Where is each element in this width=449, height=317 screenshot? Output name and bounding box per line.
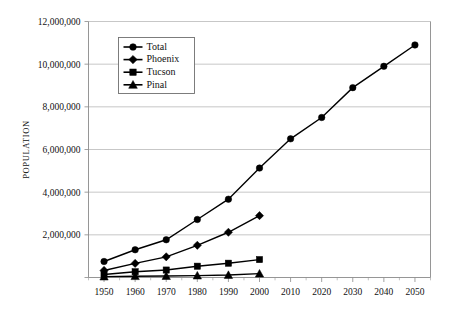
y-tick-label: 4,000,000 [43,188,81,198]
data-point-circle [256,165,263,172]
x-tick-label: 1960 [126,287,145,297]
data-point-circle [287,136,294,143]
legend-label: Phoenix [147,53,180,64]
x-tick-label: 1970 [157,287,176,297]
y-tick-label: 8,000,000 [43,102,81,112]
chart-legend: TotalPhoenixTucsonPinal [119,38,195,94]
data-point-circle [130,44,137,51]
data-point-circle [132,247,139,254]
x-tick-label: 2050 [405,287,424,297]
data-point-square [256,256,262,262]
y-tick-label: 2,000,000 [43,230,81,240]
x-tick-label: 2030 [343,287,362,297]
x-tick-label: 2000 [250,287,269,297]
data-point-square [130,69,136,75]
data-point-circle [225,196,232,203]
legend-label: Pinal [147,79,168,90]
x-tick-label: 1950 [95,287,114,297]
x-tick-label: 1980 [188,287,207,297]
x-tick-label: 2040 [374,287,393,297]
data-point-square [194,263,200,269]
legend-label: Tucson [147,66,176,77]
x-tick-label: 2020 [312,287,331,297]
data-point-circle [350,84,357,91]
x-tick-label: 1990 [219,287,238,297]
y-tick-label: 12,000,000 [38,17,81,27]
y-tick-label: 10,000,000 [38,60,81,70]
data-point-square [225,260,231,266]
chart-canvas: 2,000,0004,000,0006,000,0008,000,00010,0… [0,0,449,317]
chart-background [0,0,449,317]
y-axis-title: POPULATION [21,120,31,178]
data-point-circle [381,63,388,70]
data-point-circle [194,216,201,223]
population-line-chart: 2,000,0004,000,0006,000,0008,000,00010,0… [0,0,449,317]
data-point-circle [163,236,170,243]
data-point-circle [318,114,325,121]
x-tick-label: 2010 [281,287,300,297]
data-point-circle [412,42,419,49]
y-tick-label: 6,000,000 [43,145,81,155]
data-point-circle [101,258,108,265]
y-axis-title-text: POPULATION [21,120,31,178]
legend-label: Total [147,41,168,52]
